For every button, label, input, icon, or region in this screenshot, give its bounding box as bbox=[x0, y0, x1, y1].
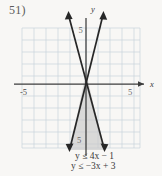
x-axis-arrowhead bbox=[138, 81, 144, 86]
y-tick-positive-5: 5 bbox=[79, 25, 83, 35]
line-1-arrowhead-top bbox=[65, 11, 73, 20]
x-tick-negative-5: -5 bbox=[20, 87, 27, 97]
y-axis-label: y bbox=[90, 4, 95, 14]
line-2-arrowhead-top bbox=[99, 11, 107, 20]
coordinate-plane: y x 5 5 -5 5 bbox=[0, 0, 162, 176]
x-tick-positive-5: 5 bbox=[128, 87, 132, 97]
x-axis-label: x bbox=[149, 79, 154, 89]
y-tick-negative-5: 5 bbox=[77, 135, 81, 145]
inequality-label-1: y ≤ 4x − 1 bbox=[75, 151, 114, 161]
inequality-label-2: y ≤ −3x + 3 bbox=[71, 161, 115, 171]
graph-figure: 51) bbox=[0, 0, 162, 176]
